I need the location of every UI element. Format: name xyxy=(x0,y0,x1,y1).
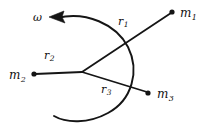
radius-label-r3-subscript: 3 xyxy=(107,88,112,97)
radius-label-r3-base: r xyxy=(101,83,106,96)
radius-label-r2: r2 xyxy=(44,46,54,63)
mass-label-m2-base: m xyxy=(9,68,20,82)
mass-label-m3-subscript: 3 xyxy=(169,94,174,103)
radius-label-r3: r3 xyxy=(101,80,111,97)
arm-r3 xyxy=(82,72,147,92)
rotation-arc xyxy=(54,16,134,121)
diagram-canvas xyxy=(0,0,202,133)
mass-dot-m1 xyxy=(169,9,174,14)
arm-r2 xyxy=(35,72,82,74)
mass-label-m1-base: m xyxy=(180,6,191,20)
mass-label-m2-subscript: 2 xyxy=(21,75,26,84)
figure-container: ω r1 r2 r3 m1 m2 m3 xyxy=(0,0,202,133)
mass-dot-m2 xyxy=(31,71,36,76)
mass-label-m2: m2 xyxy=(9,66,26,84)
radius-label-r2-base: r xyxy=(44,49,49,62)
mass-dot-m3 xyxy=(145,90,150,95)
radius-label-r2-subscript: 2 xyxy=(50,54,55,63)
mass-label-m3: m3 xyxy=(157,85,174,103)
radius-label-r1: r1 xyxy=(118,12,128,29)
omega-label: ω xyxy=(33,12,42,23)
mass-label-m1: m1 xyxy=(180,4,197,22)
radius-label-r1-subscript: 1 xyxy=(124,20,129,29)
radius-label-r1-base: r xyxy=(118,15,123,28)
mass-label-m3-base: m xyxy=(157,87,168,101)
mass-label-m1-subscript: 1 xyxy=(192,13,197,22)
